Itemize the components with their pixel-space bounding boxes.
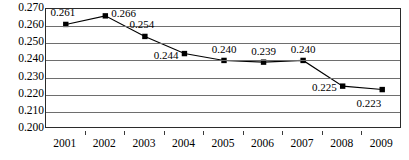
x-axis-tick-mark (203, 131, 204, 135)
data-point-marker (340, 83, 345, 88)
x-axis-tick-mark (124, 131, 125, 135)
y-axis-tick-label: 0.200 (2, 122, 44, 134)
x-axis: 200120022003200420052006200720082009 (45, 131, 401, 153)
x-axis-tick-mark (322, 131, 323, 135)
x-axis-tick-mark (164, 131, 165, 135)
y-axis-tick-label: 0.250 (2, 37, 44, 49)
y-axis-tick-label: 0.230 (2, 71, 44, 83)
data-point-marker (182, 51, 187, 56)
y-axis-tick-label: 0.220 (2, 88, 44, 100)
data-point-label: 0.244 (154, 49, 179, 60)
data-point-label: 0.261 (50, 8, 75, 19)
y-axis-tick-label: 0.240 (2, 54, 44, 66)
data-point-label: 0.239 (251, 46, 276, 57)
gridline (46, 112, 400, 113)
x-axis-tick-mark (85, 131, 86, 135)
line-chart: 0.2700.2600.2500.2400.2300.2200.2100.200… (0, 0, 409, 160)
x-axis-tick-label: 2001 (53, 138, 76, 150)
data-point-marker (142, 34, 147, 39)
gridline (46, 26, 400, 27)
data-point-label: 0.223 (356, 98, 381, 109)
data-point-label: 0.240 (291, 44, 316, 55)
x-axis-tick-label: 2007 (291, 138, 314, 150)
x-axis-tick-label: 2006 (251, 138, 274, 150)
data-point-label: 0.266 (111, 8, 136, 19)
data-point-label: 0.225 (312, 82, 337, 93)
plot-area: 0.2610.2660.2540.2440.2400.2390.2400.225… (45, 8, 401, 128)
gridline (46, 60, 400, 61)
data-point-label: 0.254 (130, 20, 155, 31)
y-axis-tick-label: 0.270 (2, 2, 44, 14)
y-axis-tick-label: 0.210 (2, 105, 44, 117)
x-axis-tick-mark (243, 131, 244, 135)
data-point-marker (103, 13, 108, 18)
y-axis-tick-label: 0.260 (2, 19, 44, 31)
x-axis-tick-mark (361, 131, 362, 135)
data-point-label: 0.240 (212, 44, 237, 55)
x-axis-tick-label: 2009 (370, 138, 393, 150)
x-axis-tick-label: 2008 (330, 138, 353, 150)
data-point-marker (380, 87, 385, 92)
y-axis: 0.2700.2600.2500.2400.2300.2200.2100.200 (0, 0, 44, 160)
gridline (46, 78, 400, 79)
x-axis-tick-label: 2002 (93, 138, 116, 150)
x-axis-tick-label: 2004 (172, 138, 195, 150)
gridline (46, 95, 400, 96)
x-axis-tick-mark (282, 131, 283, 135)
x-axis-tick-label: 2005 (212, 138, 235, 150)
x-axis-tick-label: 2003 (132, 138, 155, 150)
